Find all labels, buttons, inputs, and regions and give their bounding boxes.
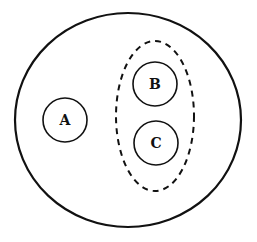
dashed-group-ellipse [116,41,194,191]
node-c: C [134,121,178,165]
node-a: A [43,98,87,142]
node-b-label: B [149,76,161,92]
outer-circle [15,13,241,227]
diagram-canvas: A B C [0,0,257,242]
node-b: B [133,62,177,106]
node-a-label: A [59,112,72,128]
node-c-label: C [150,135,161,151]
